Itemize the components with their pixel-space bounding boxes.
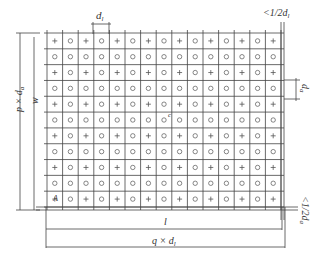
circle-marker: [131, 86, 135, 90]
bottom-outer-label: q × dl: [152, 235, 176, 248]
circle-marker: [131, 55, 135, 59]
circle-marker: [99, 134, 103, 138]
plus-marker: [84, 102, 89, 107]
circle-marker: [99, 86, 103, 90]
circle-marker: [255, 149, 259, 153]
circle-marker: [224, 118, 228, 122]
circle-marker: [240, 181, 244, 185]
circle-marker: [193, 86, 197, 90]
plus-marker: [115, 165, 120, 170]
circle-marker: [193, 134, 197, 138]
circle-marker: [115, 181, 119, 185]
plus-marker: [115, 102, 120, 107]
circle-marker: [131, 102, 135, 106]
grid-lines: [44, 30, 284, 210]
circle-marker: [146, 86, 150, 90]
plus-marker: [52, 70, 57, 75]
circle-marker: [224, 86, 228, 90]
top-right-edge-label: <1/2dl: [263, 7, 290, 20]
circle-marker: [84, 181, 88, 185]
circle-marker: [177, 86, 181, 90]
plus-marker: [240, 165, 245, 170]
circle-marker: [68, 197, 72, 201]
circle-marker: [177, 149, 181, 153]
circle-marker: [255, 118, 259, 122]
circle-marker: [99, 70, 103, 74]
circle-marker: [162, 102, 166, 106]
plus-marker: [208, 133, 213, 138]
circle-marker: [224, 39, 228, 43]
circle-marker: [193, 149, 197, 153]
circle-marker: [271, 55, 275, 59]
circle-marker: [146, 149, 150, 153]
plus-marker: [115, 70, 120, 75]
circle-marker: [209, 149, 213, 153]
circle-marker: [68, 118, 72, 122]
circle-marker: [99, 55, 103, 59]
plus-marker: [271, 165, 276, 170]
plus-marker: [115, 133, 120, 138]
circle-marker: [131, 197, 135, 201]
plus-marker: [52, 165, 57, 170]
circle-marker: [68, 134, 72, 138]
plus-marker: [146, 70, 151, 75]
circle-marker: [209, 55, 213, 59]
circle-marker: [255, 39, 259, 43]
circle-marker: [240, 86, 244, 90]
circle-marker: [224, 102, 228, 106]
circle-marker: [131, 181, 135, 185]
circle-marker: [162, 70, 166, 74]
circle-marker: [115, 86, 119, 90]
plus-marker: [271, 197, 276, 202]
circle-marker: [255, 134, 259, 138]
left-outer-dimension: [16, 33, 40, 210]
circle-marker: [271, 149, 275, 153]
right-spacing-dimension: [284, 78, 300, 101]
circle-marker: [240, 149, 244, 153]
top-spacing-label: dl: [96, 9, 104, 23]
plus-marker: [271, 102, 276, 107]
plus-marker: [177, 38, 182, 43]
circle-marker: [53, 86, 57, 90]
circle-marker: [240, 118, 244, 122]
circle-marker: [162, 197, 166, 201]
plus-marker: [271, 70, 276, 75]
circle-marker: [131, 118, 135, 122]
circle-marker: [84, 86, 88, 90]
top-right-edge-dimension: [281, 22, 284, 220]
circle-marker: [193, 165, 197, 169]
circle-marker: [224, 165, 228, 169]
plus-marker: [146, 197, 151, 202]
plus-marker: [240, 38, 245, 43]
circle-marker: [193, 102, 197, 106]
plus-marker: [146, 165, 151, 170]
circle-marker: [224, 55, 228, 59]
circle-marker: [193, 39, 197, 43]
right-spacing-label: da: [298, 84, 311, 93]
circle-marker: [255, 70, 259, 74]
left-outer-label: p × da: [13, 86, 26, 113]
plus-marker: [240, 102, 245, 107]
circle-marker: [162, 134, 166, 138]
circle-marker: [162, 55, 166, 59]
plus-marker: [208, 165, 213, 170]
corner-mark-label: A: [52, 194, 58, 203]
circle-marker: [115, 55, 119, 59]
circle-marker: [131, 134, 135, 138]
circle-marker: [68, 149, 72, 153]
plus-marker: [146, 38, 151, 43]
circle-marker: [193, 70, 197, 74]
circle-marker: [99, 149, 103, 153]
circle-marker: [68, 39, 72, 43]
left-inner-label: w: [29, 97, 40, 104]
plus-marker: [208, 102, 213, 107]
circle-marker: [162, 39, 166, 43]
circle-marker: [224, 70, 228, 74]
plus-marker: [52, 133, 57, 138]
plus-marker: [177, 102, 182, 107]
circle-marker: [177, 181, 181, 185]
plus-marker: [84, 38, 89, 43]
plus-marker: [177, 70, 182, 75]
plus-marker: [177, 133, 182, 138]
circle-marker: [255, 86, 259, 90]
